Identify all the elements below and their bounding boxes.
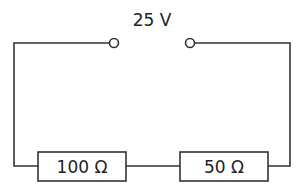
voltage-label: 25 V xyxy=(133,10,172,30)
wires xyxy=(14,43,290,166)
wire-left xyxy=(14,43,109,166)
terminal-left xyxy=(110,39,119,48)
wire-right xyxy=(195,43,290,166)
resistor-100-label: 100 Ω xyxy=(57,157,108,177)
resistor-50-label: 50 Ω xyxy=(204,157,244,177)
terminal-right xyxy=(186,39,195,48)
circuit-diagram: 25 V 100 Ω 50 Ω xyxy=(0,0,297,195)
